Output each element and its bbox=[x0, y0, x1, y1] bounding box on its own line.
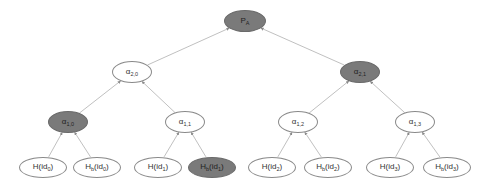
node-h1: H(id1) bbox=[134, 157, 182, 178]
node-root: PA bbox=[224, 10, 266, 32]
edge-hb3-to-a13 bbox=[422, 132, 440, 157]
node-label: H(id0) bbox=[33, 162, 53, 172]
node-label: α1,0 bbox=[62, 117, 74, 127]
node-label: α2,1 bbox=[354, 67, 366, 77]
node-label: α1,1 bbox=[179, 117, 191, 127]
node-label: H(id1) bbox=[148, 162, 168, 172]
node-label: Hb(id1) bbox=[200, 162, 223, 172]
node-h0: H(id0) bbox=[19, 157, 67, 178]
node-label: α1,2 bbox=[292, 117, 304, 127]
edge-a20-to-root bbox=[147, 28, 229, 65]
node-label: PA bbox=[240, 16, 249, 26]
node-a11: α1,1 bbox=[165, 111, 205, 133]
node-h2: H(id2) bbox=[248, 157, 296, 178]
node-label: H(id2) bbox=[262, 162, 282, 172]
edge-h1-to-a11 bbox=[164, 132, 179, 156]
edge-hb0-to-a10 bbox=[75, 132, 91, 157]
node-hb0: Hb(id0) bbox=[73, 157, 121, 178]
node-a10: α1,0 bbox=[48, 111, 88, 133]
node-hb2: Hb(id2) bbox=[304, 157, 352, 178]
edge-h0-to-a10 bbox=[49, 133, 62, 157]
edge-a11-to-a20 bbox=[142, 82, 175, 113]
edge-h2-to-a12 bbox=[278, 132, 292, 156]
edge-a10-to-a20 bbox=[80, 81, 121, 113]
edge-a12-to-a21 bbox=[309, 81, 348, 113]
node-a13: α1,3 bbox=[395, 111, 435, 133]
edge-a21-to-root bbox=[261, 28, 344, 65]
node-label: Hb(id0) bbox=[85, 162, 108, 172]
node-h3: H(id3) bbox=[366, 157, 414, 178]
node-hb3: Hb(id3) bbox=[423, 157, 471, 178]
node-label: Hb(id3) bbox=[435, 162, 458, 172]
edge-h3-to-a13 bbox=[396, 133, 409, 157]
edge-hb1-to-a11 bbox=[191, 132, 206, 156]
node-a20: α2,0 bbox=[112, 61, 152, 83]
edge-hb2-to-a12 bbox=[305, 132, 321, 157]
merkle-tree-diagram: PAα2,0α2,1α1,0α1,1α1,2α1,3H(id0)Hb(id0)H… bbox=[0, 0, 488, 190]
edge-a13-to-a21 bbox=[370, 81, 404, 112]
node-hb1: Hb(id1) bbox=[188, 157, 236, 178]
node-label: α2,0 bbox=[126, 67, 138, 77]
node-a12: α1,2 bbox=[278, 111, 318, 133]
node-label: H(id3) bbox=[380, 162, 400, 172]
node-a21: α2,1 bbox=[340, 61, 380, 83]
node-label: Hb(id2) bbox=[316, 162, 339, 172]
node-label: α1,3 bbox=[409, 117, 421, 127]
